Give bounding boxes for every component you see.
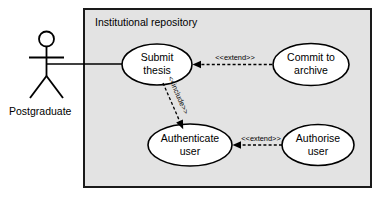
system-boundary-title: Institutional repository bbox=[95, 16, 198, 28]
use-case-authenticate-user: Authenticate user bbox=[148, 124, 232, 166]
use-case-diagram: Institutional repository Postgraduate Su… bbox=[0, 0, 382, 200]
stereotype-label-extend-bottom: <<extend>> bbox=[241, 134, 280, 143]
use-case-submit-thesis: Submit thesis bbox=[122, 44, 192, 85]
actor-postgraduate: Postgraduate bbox=[9, 32, 72, 118]
use-case-label-commit-to-archive-line2: archive bbox=[294, 64, 328, 76]
actor-head-icon bbox=[39, 32, 54, 47]
use-case-commit-to-archive: Commit to archive bbox=[273, 44, 349, 86]
use-case-label-commit-to-archive-line1: Commit to bbox=[287, 51, 335, 63]
actor-label-postgraduate: Postgraduate bbox=[9, 105, 72, 117]
use-case-label-authenticate-user-line2: user bbox=[180, 145, 201, 157]
use-case-label-authenticate-user-line1: Authenticate bbox=[161, 132, 220, 144]
use-case-label-authorise-user-line2: user bbox=[308, 145, 329, 157]
use-case-label-authorise-user-line1: Authorise bbox=[296, 132, 341, 144]
actor-right-leg-line bbox=[47, 76, 64, 98]
stereotype-label-extend-top: <<extend>> bbox=[215, 53, 254, 62]
use-case-label-submit-thesis-line2: thesis bbox=[143, 64, 170, 76]
use-case-authorise-user: Authorise user bbox=[282, 125, 354, 166]
use-case-label-submit-thesis-line1: Submit bbox=[141, 51, 174, 63]
actor-left-leg-line bbox=[30, 76, 47, 98]
diagram-canvas: Institutional repository Postgraduate Su… bbox=[0, 0, 382, 200]
